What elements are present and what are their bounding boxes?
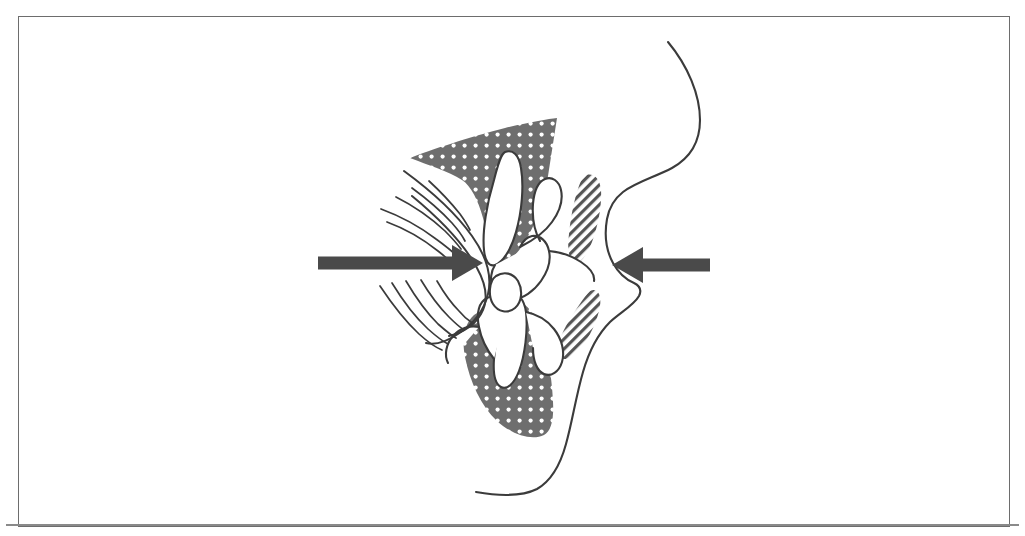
lower-lip-hatched-region	[558, 290, 601, 359]
page-root	[0, 0, 1025, 536]
anatomical-illustration	[0, 0, 1025, 536]
left-force-arrow	[318, 245, 483, 281]
upper-lip-hatched-region	[568, 175, 601, 264]
right-force-arrow	[612, 247, 710, 283]
